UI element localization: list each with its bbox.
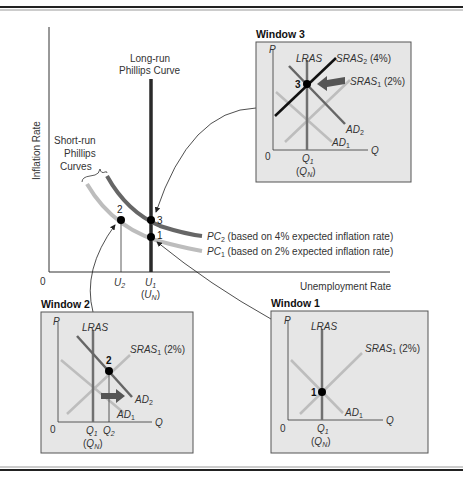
srpc-label-1: Short-run [54,135,96,146]
w2-lras-label: LRAS [82,322,108,333]
point-2 [117,216,125,224]
srpc-label-2: Phillips [64,148,96,159]
x-axis-label: Unemployment Rate [300,281,392,292]
lrpc-label-1: Long-run [130,53,170,64]
w3-point-3 [303,80,311,88]
lrpc-label-2: Phillips Curve [119,65,181,76]
w1-point-1-label: 1 [311,387,317,398]
point-3 [147,216,155,224]
window-3: Window 3 P Q 0 3 LRAS SRAS2 (4%) SRAS1 (… [256,28,411,182]
origin-label: 0 [40,276,46,287]
un-tick-label: (UN) [141,289,160,301]
window-1-title: Window 1 [271,297,320,309]
w1-zero-label: 0 [280,423,286,434]
window-1: Window 1 P Q 0 1 LRAS SRAS1 (2%) AD1 Q1 … [271,297,428,453]
arrow-window3-to-point3 [156,108,256,212]
top-rule [0,7,463,10]
point-3-label: 3 [157,215,163,226]
w1-point-1 [318,388,326,396]
w2-p-label: P [53,316,60,327]
phillips-curve-diagram: Inflation Rate Unemployment Rate 0 Long-… [0,0,463,483]
pc2-label: PC2 (based on 4% expected inflation rate… [207,231,393,243]
window-1-box [271,311,428,453]
window-3-title: Window 3 [256,28,305,40]
w3-p-label: P [269,44,276,55]
w1-qn-label: (QN) [311,436,331,448]
bottom-rule [0,467,463,470]
arrow-window2-to-point2 [90,225,115,312]
u1-tick-label: U1 [145,277,156,289]
w3-point-3-label: 3 [295,79,301,90]
u2-tick-label: U2 [114,277,125,289]
w2-point-2 [105,367,113,375]
w2-zero-label: 0 [50,424,56,435]
w3-qn-label: (QN) [296,166,316,178]
w2-qn-label: (QN) [83,438,103,450]
w3-zero-label: 0 [265,151,271,162]
w3-q-label: Q [371,145,379,156]
window-2-title: Window 2 [41,298,90,310]
point-2-label: 2 [117,204,123,215]
w2-q-label: Q [155,417,163,428]
w3-lras-label: LRAS [296,53,322,64]
w1-p-label: P [284,315,291,326]
y-axis-label: Inflation Rate [31,121,42,180]
w2-point-2-label: 2 [106,355,112,366]
pc1-label: PC1 (based on 2% expected inflation rate… [207,246,393,258]
srpc-label-3: Curves [60,161,92,172]
w1-lras-label: LRAS [311,321,337,332]
w1-q-label: Q [386,415,394,426]
point-1-label: 1 [157,230,163,241]
point-1 [147,233,155,241]
window-2-box [41,312,193,453]
window-2: Window 2 P Q 0 2 LRAS SRAS1 (2%) AD2 AD1… [41,298,193,453]
